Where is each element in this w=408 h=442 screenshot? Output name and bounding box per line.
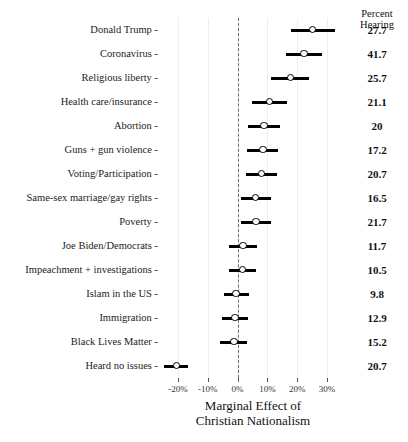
category-label: Same-sex marriage/gay rights - (27, 192, 159, 203)
point-range-row (160, 120, 345, 132)
estimate-point (259, 146, 266, 153)
estimate-point (239, 266, 246, 273)
estimate-point (173, 362, 180, 369)
percent-hearing-value: 21.1 (346, 96, 408, 108)
point-range-row (160, 360, 345, 372)
point-range-row (160, 168, 345, 180)
estimate-point (231, 314, 238, 321)
point-range-row (160, 192, 345, 204)
point-range-row (160, 72, 345, 84)
estimate-point (266, 98, 273, 105)
point-range-row (160, 48, 345, 60)
estimate-point (260, 122, 267, 129)
x-axis-tick (178, 378, 179, 382)
x-axis-tick-label: 10% (259, 384, 276, 394)
percent-hearing-value: 20.7 (346, 168, 408, 180)
percent-hearing-column: 27.741.725.721.12017.220.716.521.711.710… (346, 18, 408, 378)
percent-hearing-value: 41.7 (346, 48, 408, 60)
percent-hearing-value: 10.5 (346, 264, 408, 276)
percent-hearing-value: 15.2 (346, 336, 408, 348)
category-label: Abortion - (114, 120, 158, 131)
percent-hearing-value: 20 (346, 120, 408, 132)
category-label: Health care/insurance - (61, 96, 158, 107)
category-label: Heard no issues - (85, 360, 158, 371)
percent-hearing-value: 9.8 (346, 288, 408, 300)
point-range-chart: Percent Hearing Donald Trump -Coronaviru… (0, 0, 408, 442)
x-axis-tick-label: -10% (198, 384, 218, 394)
estimate-point (239, 242, 246, 249)
x-axis-tick-label: 30% (319, 384, 336, 394)
estimate-point (309, 26, 316, 33)
estimate-point (258, 170, 265, 177)
point-range-row (160, 312, 345, 324)
category-label: Black Lives Matter - (71, 336, 158, 347)
category-label: Joe Biden/Democrats - (62, 240, 158, 251)
x-axis: -20%-10%0%10%20%30% (160, 378, 345, 398)
estimate-point (232, 290, 239, 297)
x-axis-tick-label: 20% (289, 384, 306, 394)
percent-hearing-value: 20.7 (346, 360, 408, 372)
category-label: Guns + gun violence - (65, 144, 158, 155)
category-label: Impeachment + investigations - (25, 264, 158, 275)
category-label: Coronavirus - (100, 48, 158, 59)
x-axis-title: Marginal Effect of Christian Nationalism (150, 398, 356, 428)
category-label: Islam in the US - (86, 288, 158, 299)
x-axis-tick (238, 378, 239, 382)
point-range-row (160, 336, 345, 348)
estimate-point (252, 218, 259, 225)
percent-hearing-value: 21.7 (346, 216, 408, 228)
estimate-point (252, 194, 259, 201)
x-axis-title-line2: Christian Nationalism (150, 413, 356, 428)
estimate-point (287, 74, 294, 81)
point-range-row (160, 216, 345, 228)
x-axis-tick (327, 378, 328, 382)
point-range-row (160, 240, 345, 252)
estimate-point (300, 50, 307, 57)
percent-hearing-value: 25.7 (346, 72, 408, 84)
x-axis-tick-label: -20% (168, 384, 188, 394)
x-axis-tick (297, 378, 298, 382)
percent-hearing-value: 16.5 (346, 192, 408, 204)
percent-hearing-value: 12.9 (346, 312, 408, 324)
percent-hearing-value: 17.2 (346, 144, 408, 156)
x-axis-tick-label: 0% (232, 384, 244, 394)
point-range-row (160, 24, 345, 36)
point-range-row (160, 96, 345, 108)
x-axis-tick (267, 378, 268, 382)
point-range-row (160, 264, 345, 276)
percent-hearing-value: 27.7 (346, 24, 408, 36)
category-label: Donald Trump - (90, 24, 158, 35)
estimate-point (230, 338, 237, 345)
category-label: Poverty - (119, 216, 158, 227)
category-label-column: Donald Trump -Coronavirus -Religious lib… (0, 18, 158, 378)
category-label: Immigration - (99, 312, 158, 323)
plot-panel (160, 18, 345, 378)
percent-hearing-value: 11.7 (346, 240, 408, 252)
x-axis-title-line1: Marginal Effect of (150, 398, 356, 413)
category-label: Religious liberty - (82, 72, 158, 83)
point-range-row (160, 288, 345, 300)
point-range-row (160, 144, 345, 156)
x-axis-tick (208, 378, 209, 382)
category-label: Voting/Participation - (67, 168, 158, 179)
